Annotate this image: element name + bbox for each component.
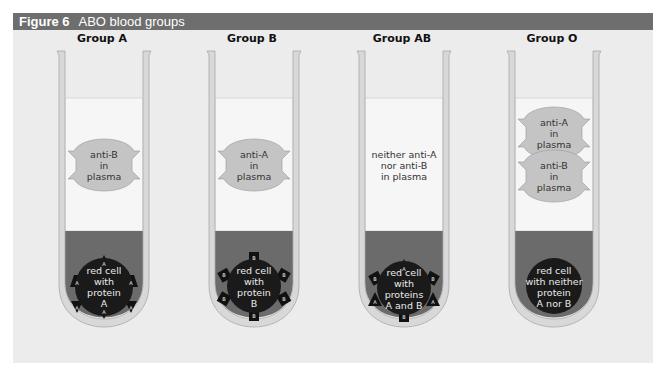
svg-text:A: A <box>102 309 106 315</box>
text-line: plasma <box>74 171 134 182</box>
text-line: with neither <box>519 276 589 287</box>
group-ab-cell-text: red cell with proteins A and B <box>369 267 439 311</box>
text-line: in <box>74 160 134 171</box>
group-b-plasma-text: anti-A in plasma <box>224 149 284 182</box>
text-line: nor anti-B <box>364 160 444 171</box>
group-a-plasma-text: anti-B in plasma <box>74 149 134 182</box>
text-line: in <box>224 160 284 171</box>
text-line: in plasma <box>364 171 444 182</box>
group-o-plasma-text-top: anti-A in plasma <box>524 117 584 150</box>
text-line: in <box>524 128 584 139</box>
svg-text:B: B <box>252 313 256 319</box>
text-line: proteins <box>369 289 439 300</box>
group-o-plasma-text-bottom: anti-B in plasma <box>524 160 584 193</box>
text-line: A and B <box>369 300 439 311</box>
svg-text:B: B <box>402 314 406 320</box>
group-a-cell-text: red cell with protein A <box>74 265 134 309</box>
text-line: protein <box>74 287 134 298</box>
text-line: A <box>74 298 134 309</box>
text-line: red cell <box>519 265 589 276</box>
text-line: anti-B <box>74 149 134 160</box>
text-line: anti-B <box>524 160 584 171</box>
text-line: with <box>224 276 284 287</box>
group-ab-plasma-text: neither anti-A nor anti-B in plasma <box>364 149 444 182</box>
text-line: protein <box>224 287 284 298</box>
text-line: B <box>224 298 284 309</box>
text-line: plasma <box>524 182 584 193</box>
group-b-cell-text: red cell with protein B <box>224 265 284 309</box>
text-line: A nor B <box>519 298 589 309</box>
svg-text:B: B <box>252 255 256 261</box>
text-line: red cell <box>224 265 284 276</box>
text-line: with <box>369 278 439 289</box>
figure-panel: Figure 6 ABO blood groups Group A Group … <box>13 13 653 363</box>
text-line: neither anti-A <box>364 149 444 160</box>
text-line: red cell <box>74 265 134 276</box>
text-line: with <box>74 276 134 287</box>
text-line: anti-A <box>224 149 284 160</box>
text-line: protein <box>519 287 589 298</box>
text-line: anti-A <box>524 117 584 128</box>
group-o-cell-text: red cell with neither protein A nor B <box>519 265 589 309</box>
text-line: red cell <box>369 267 439 278</box>
text-line: plasma <box>224 171 284 182</box>
text-line: in <box>524 171 584 182</box>
text-line: plasma <box>524 139 584 150</box>
